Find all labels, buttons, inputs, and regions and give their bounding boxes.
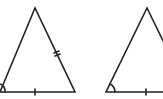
triangle-right-outline xyxy=(106,8,163,92)
side-double-tick-2 xyxy=(55,54,60,56)
diagram-canvas xyxy=(0,0,163,99)
triangle-right xyxy=(106,8,163,95)
triangle-left-outline xyxy=(0,8,75,92)
angle-arc-right xyxy=(110,84,115,92)
triangle-left xyxy=(0,8,75,95)
